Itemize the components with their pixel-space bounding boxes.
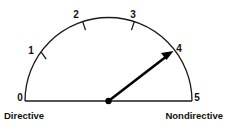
tick-label-5: 5	[194, 92, 200, 103]
needle-pivot-dot	[105, 98, 111, 104]
tick-label-1: 1	[28, 45, 34, 56]
pole-label-left: Directive	[4, 110, 44, 121]
pole-label-right: Nondirective	[165, 110, 223, 121]
tick-label-4: 4	[176, 43, 182, 54]
tick-mark-1	[41, 52, 46, 59]
tick-label-2: 2	[73, 9, 79, 20]
tick-mark-2	[83, 22, 86, 31]
gauge-figure: 0 1 2 3 4 5 Directive Nondirective	[0, 0, 227, 123]
tick-label-3: 3	[130, 9, 136, 20]
gauge-svg: 0 1 2 3 4 5 Directive Nondirective	[0, 0, 227, 123]
tick-label-0: 0	[17, 92, 23, 103]
tick-mark-3	[132, 22, 135, 31]
gauge-needle	[109, 57, 167, 101]
